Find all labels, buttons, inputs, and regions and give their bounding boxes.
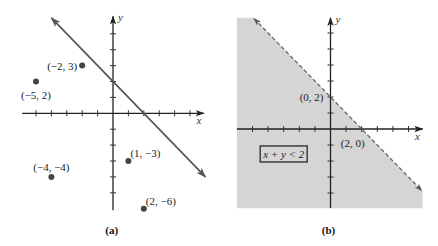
inequality-label: x + y < 2 [262, 148, 305, 160]
data-point [79, 63, 85, 69]
point-label: (−4, −4) [33, 161, 70, 174]
figure: xy(−2, 3)(−5, 2)(1, −3)(−4, −4)(2, −6) x… [0, 0, 438, 246]
point-label: (0, 2) [300, 91, 324, 104]
point-label: (2, 0) [341, 137, 365, 150]
caption-a: (a) [105, 224, 118, 237]
panel-a-scatter-plot: xy(−2, 3)(−5, 2)(1, −3)(−4, −4)(2, −6) [21, 11, 205, 211]
point-label: (1, −3) [130, 147, 160, 160]
y-axis-label: y [117, 11, 123, 23]
line-x-plus-y-equals-2 [51, 18, 205, 177]
panel-b-inequality-plot: xy(0, 2)(2, 0)x + y < 2 [237, 13, 423, 208]
y-axis-label: y [335, 13, 341, 25]
point-label: (2, −6) [146, 195, 176, 208]
data-point [48, 174, 54, 180]
point-label: (−2, 3) [47, 60, 77, 73]
x-axis-label: x [414, 130, 420, 142]
point-label: (−5, 2) [21, 89, 51, 102]
data-point [33, 79, 39, 85]
caption-b: (b) [322, 224, 336, 237]
x-axis-label: x [195, 114, 201, 126]
